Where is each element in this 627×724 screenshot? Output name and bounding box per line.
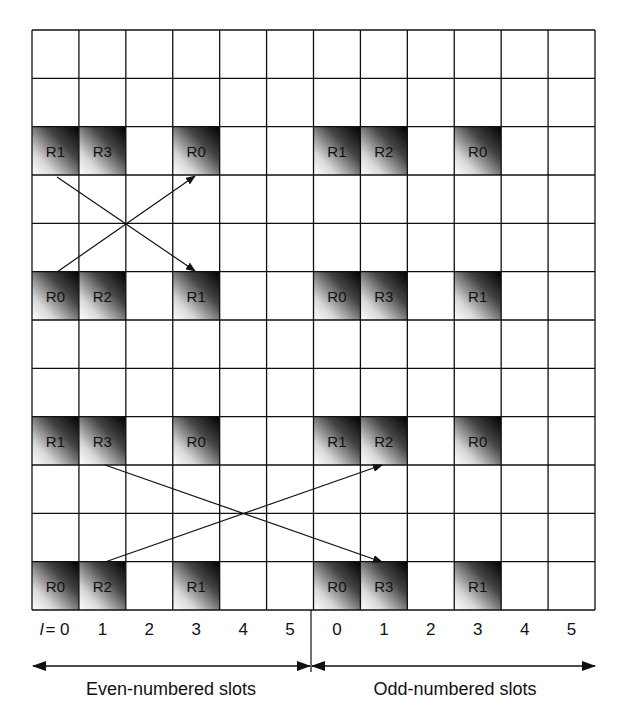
cell-label: R2: [93, 578, 112, 595]
tick-even-5: 5: [285, 620, 294, 639]
tick-even-2: 2: [145, 620, 154, 639]
slot-cell-r1: R1: [32, 417, 79, 465]
slot-cell-r0: R0: [454, 127, 501, 175]
cell-label: R1: [327, 433, 346, 450]
even-slots-span: Even-numbered slots: [33, 666, 310, 699]
tick-even-4: 4: [238, 620, 247, 639]
cell-label: R1: [46, 143, 65, 160]
odd-slots-label: Odd-numbered slots: [373, 679, 536, 699]
slot-diagram: R1R3R0R1R2R0R0R2R1R0R3R1R1R3R0R1R2R0R0R2…: [0, 0, 627, 724]
cell-label: R1: [187, 578, 206, 595]
cell-label: R3: [374, 288, 393, 305]
odd-slots-span: Odd-numbered slots: [312, 666, 595, 699]
cell-label: R2: [374, 433, 393, 450]
slot-cell-r3: R3: [79, 127, 126, 175]
cell-label: R0: [187, 143, 206, 160]
slot-cell-r1: R1: [32, 127, 79, 175]
tick-odd-2: 2: [426, 620, 435, 639]
slot-index-axis: l= 012345012345: [40, 620, 577, 639]
cell-label: R0: [327, 578, 346, 595]
cell-label: R1: [468, 578, 487, 595]
slot-cell-r1: R1: [314, 417, 361, 465]
cell-label: R3: [374, 578, 393, 595]
cell-label: R1: [327, 143, 346, 160]
slot-cell-r3: R3: [79, 417, 126, 465]
tick-odd-0: 0: [332, 620, 341, 639]
cell-label: R0: [46, 288, 65, 305]
cell-label: R0: [46, 578, 65, 595]
slot-cell-r0: R0: [32, 562, 79, 610]
slot-cell-r2: R2: [79, 562, 126, 610]
slot-grid: [32, 30, 595, 610]
slot-cell-r1: R1: [454, 562, 501, 610]
slot-cell-r2: R2: [79, 272, 126, 320]
cell-label: R3: [93, 433, 112, 450]
tick-even-0: = 0: [45, 620, 69, 639]
slot-cell-r0: R0: [173, 417, 220, 465]
slot-cell-r3: R3: [360, 272, 407, 320]
cell-label: R2: [374, 143, 393, 160]
slot-cell-r1: R1: [314, 127, 361, 175]
tick-odd-5: 5: [567, 620, 576, 639]
cell-label: R0: [468, 143, 487, 160]
tick-even-3: 3: [191, 620, 200, 639]
cell-label: R1: [187, 288, 206, 305]
tick-odd-1: 1: [379, 620, 388, 639]
slot-cell-r0: R0: [32, 272, 79, 320]
tick-odd-3: 3: [473, 620, 482, 639]
cell-label: R2: [93, 288, 112, 305]
slot-cell-r1: R1: [173, 562, 220, 610]
slot-cell-r0: R0: [314, 272, 361, 320]
slot-cell-r3: R3: [360, 562, 407, 610]
slot-cell-r2: R2: [360, 127, 407, 175]
slot-cell-r0: R0: [314, 562, 361, 610]
even-slots-label: Even-numbered slots: [86, 679, 256, 699]
slot-cell-r1: R1: [454, 272, 501, 320]
slot-cell-r1: R1: [173, 272, 220, 320]
cell-label: R0: [327, 288, 346, 305]
cell-label: R0: [468, 433, 487, 450]
cell-label: R3: [93, 143, 112, 160]
cell-label: R1: [46, 433, 65, 450]
tick-odd-4: 4: [520, 620, 529, 639]
slot-cell-r0: R0: [173, 127, 220, 175]
slot-cell-r0: R0: [454, 417, 501, 465]
tick-even-1: 1: [98, 620, 107, 639]
slot-index-symbol: l: [40, 620, 45, 639]
cell-label: R1: [468, 288, 487, 305]
cell-label: R0: [187, 433, 206, 450]
slot-cell-r2: R2: [360, 417, 407, 465]
